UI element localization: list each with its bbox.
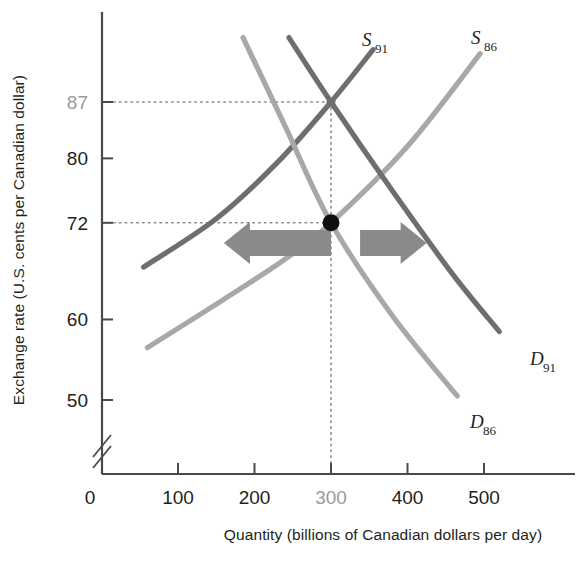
curve-label-d91: D91 <box>529 348 556 375</box>
curve-label-main-s91: S <box>362 29 372 50</box>
curve-label-sub-d91: 91 <box>543 360 556 375</box>
y-tick-label-87: 87 <box>67 92 88 113</box>
curve-s86 <box>147 54 480 348</box>
curve-label-sub-s91: 91 <box>375 41 388 56</box>
curve-label-main-d91: D <box>529 348 544 369</box>
x-tick-label-0: 0 <box>85 487 96 508</box>
curve-label-d86: D86 <box>469 411 497 438</box>
curve-label-s86: S86 <box>471 27 498 54</box>
curve-label-sub-d86: 86 <box>483 423 497 438</box>
x-axis-title: Quantity (billions of Canadian dollars p… <box>224 526 542 543</box>
chart-canvas: 50607280870100200300400500 S91S86D91D86 … <box>0 0 586 561</box>
equilibrium-1991-dot <box>327 98 336 107</box>
curve-label-sub-s86: 86 <box>484 39 498 54</box>
curve-label-s91: S91 <box>362 29 388 56</box>
arrow-left <box>224 222 331 264</box>
x-tick-label-300: 300 <box>315 487 347 508</box>
exchange-rate-supply-demand-figure: 50607280870100200300400500 S91S86D91D86 … <box>0 0 586 561</box>
axes-group <box>93 12 575 474</box>
curves-group <box>144 38 500 396</box>
x-tick-label-400: 400 <box>392 487 424 508</box>
x-tick-label-100: 100 <box>162 487 194 508</box>
y-tick-label-80: 80 <box>67 148 88 169</box>
y-tick-label-50: 50 <box>67 390 88 411</box>
x-tick-label-500: 500 <box>468 487 500 508</box>
curve-label-main-d86: D <box>469 411 484 432</box>
curve-label-main-s86: S <box>471 27 481 48</box>
y-tick-label-60: 60 <box>67 309 88 330</box>
y-tick-label-72: 72 <box>67 213 88 234</box>
curve-d91 <box>289 38 499 332</box>
curve-d86 <box>243 38 457 396</box>
y-axis-title: Exchange rate (U.S. cents per Canadian d… <box>10 75 27 405</box>
equilibrium-1986-dot <box>323 214 340 231</box>
x-tick-label-200: 200 <box>239 487 271 508</box>
